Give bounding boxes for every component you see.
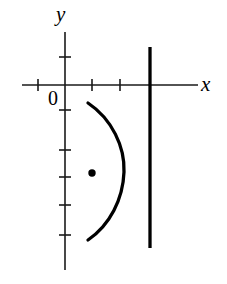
figure-canvas [0,0,227,284]
y-axis-label: y [56,4,65,25]
focus-point [88,169,95,176]
x-axis-label: x [201,74,210,95]
parabola-figure: y x 0 [0,0,227,284]
origin-label: 0 [48,88,58,108]
coordinate-axes [22,32,198,270]
